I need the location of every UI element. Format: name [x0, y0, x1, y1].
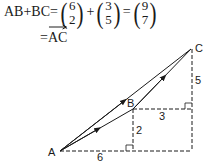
measure-5-label: 5 — [195, 74, 201, 86]
vector-ac-arrow-icon — [60, 101, 124, 151]
point-b-label: B — [127, 97, 134, 109]
measure-2-label: 2 — [136, 124, 142, 136]
measure-6-label: 6 — [97, 151, 103, 163]
point-a-label: A — [48, 146, 56, 158]
vector-ab-arrow-icon — [60, 129, 98, 151]
vector-triangle-diagram: A B C 6 2 3 5 — [0, 0, 213, 166]
measure-3-label: 3 — [159, 110, 165, 122]
point-c-label: C — [195, 42, 203, 54]
